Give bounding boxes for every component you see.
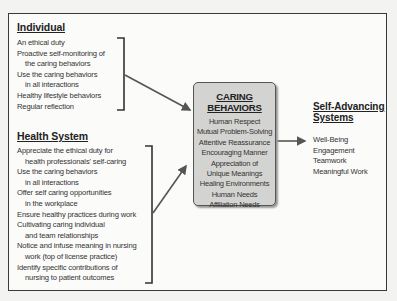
list-item: Unique Meanings — [194, 169, 275, 179]
list-item: Teamwork — [313, 156, 368, 167]
list-item: Engagement — [313, 146, 368, 157]
caring-behaviors-list: Human RespectMutual Problem-SolvingAtten… — [194, 117, 275, 211]
list-item: Healing Environments — [194, 179, 275, 189]
list-item: Appreciation of — [194, 159, 275, 169]
list-item: Well-Being — [313, 135, 368, 146]
list-item: Human Needs — [194, 190, 275, 200]
self-advancing-title-line1: Self-Advancing — [313, 101, 384, 112]
list-item: Attentive Reassurance — [194, 138, 275, 148]
health-system-bracket — [145, 146, 152, 283]
individual-bracket — [117, 38, 124, 110]
self-advancing-title: Self-Advancing Systems — [313, 101, 384, 123]
individual-arrow — [125, 75, 190, 110]
self-advancing-list: Well-BeingEngagementTeamworkMeaningful W… — [313, 135, 368, 177]
caring-behaviors-title: CARING BEHAVIORS — [194, 91, 275, 113]
health-system-arrow — [153, 166, 186, 213]
list-item: Meaningful Work — [313, 167, 368, 178]
list-item: Human Respect — [194, 117, 275, 127]
list-item: Encouraging Manner — [194, 148, 275, 158]
list-item: Mutual Problem-Solving — [194, 127, 275, 137]
self-advancing-title-line2: Systems — [313, 112, 384, 123]
list-item: Affiliation Needs — [194, 200, 275, 210]
caring-behaviors-box: CARING BEHAVIORS Human RespectMutual Pro… — [193, 82, 276, 206]
